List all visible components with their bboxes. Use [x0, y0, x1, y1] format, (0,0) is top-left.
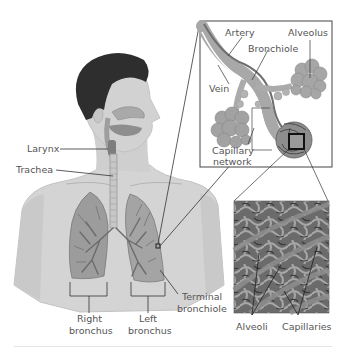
right-arm — [14, 194, 44, 300]
label-vein: Vein — [209, 83, 229, 94]
label-terminal-bronchiole-1: Terminal — [181, 291, 222, 302]
label-capillary-network-1: Capillary — [212, 145, 254, 156]
label-right-bronchus-2: bronchus — [69, 325, 113, 336]
inset-capillaries: Alveoli Capillaries — [234, 201, 332, 332]
label-left-bronchus-2: bronchus — [128, 325, 172, 336]
inset-bronchiole: Artery Alveolus Bronchiole Vein Capillar… — [200, 21, 332, 167]
label-capillaries: Capillaries — [282, 321, 332, 332]
label-right-bronchus-1: Right — [77, 313, 102, 324]
label-capillary-network-2: network — [213, 156, 252, 167]
label-bronchiole: Bronchiole — [248, 43, 298, 54]
trachea-tube — [110, 154, 117, 228]
label-artery: Artery — [225, 27, 255, 38]
torso — [14, 165, 224, 312]
human-figure — [14, 53, 224, 312]
capillary-network-cluster — [276, 122, 312, 158]
alveolus-cluster-left — [211, 107, 251, 148]
bottom-divider — [14, 346, 332, 347]
capillary-zoom-marker — [289, 134, 304, 149]
label-alveolus: Alveolus — [288, 27, 328, 38]
label-alveoli: Alveoli — [236, 321, 268, 332]
label-terminal-bronchiole-2: bronchiole — [177, 303, 227, 314]
label-left-bronchus-1: Left — [139, 313, 157, 324]
label-trachea: Trachea — [15, 164, 53, 175]
respiratory-diagram: Larynx Trachea Right bronchus Left bronc… — [0, 0, 344, 356]
label-larynx: Larynx — [27, 143, 60, 154]
